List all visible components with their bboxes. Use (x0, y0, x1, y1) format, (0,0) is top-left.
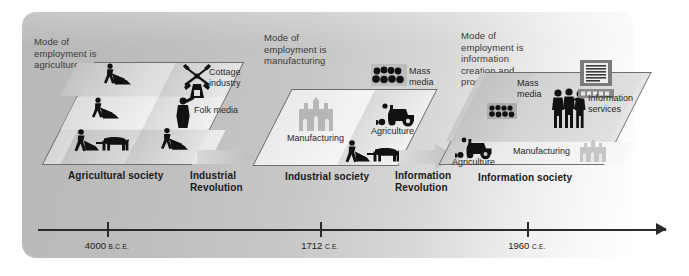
timeline-year: 4000 (85, 240, 106, 251)
timeline-axis (38, 229, 666, 231)
label-cottage-industry: Cottage industry (209, 67, 251, 88)
timeline-era: C.E. (532, 243, 546, 250)
society-label-agricultural: Agricultural society (68, 170, 163, 181)
transition-line: Revolution (395, 182, 451, 194)
mode-caption-industrial: Mode of employment is manufacturing (264, 32, 359, 67)
label-folk-media: Folk media (194, 105, 238, 116)
farmer-plow-icon (158, 127, 192, 153)
farmer-plow-icon (89, 97, 123, 121)
label-line: Agriculture (371, 126, 414, 137)
timeline-arrowhead (656, 223, 667, 235)
mode-line: employment is (461, 42, 541, 54)
timeline-label: 4000 B.C.E. (85, 240, 129, 251)
mode-line: employment is (34, 48, 124, 60)
timeline-tick (320, 222, 322, 237)
cinema-audience-icon (487, 103, 517, 119)
timeline-year: 1960 (508, 240, 529, 251)
farmer-ox-plow-icon (344, 139, 406, 167)
ghost-text (95, 196, 98, 208)
farmer-plow-icon (101, 63, 135, 87)
label-mass-media-industrial: Mass media (409, 66, 445, 87)
label-line: Folk media (194, 105, 238, 116)
factory-building-icon (296, 95, 336, 131)
label-line: Mass (517, 78, 551, 89)
label-manufacturing-information: Manufacturing (513, 146, 570, 157)
timeline-year: 1712 (301, 240, 322, 251)
mode-line: Mode of (34, 36, 124, 48)
timeline-tick (527, 222, 529, 237)
cinema-audience-icon (371, 64, 407, 86)
label-manufacturing-industrial: Manufacturing (287, 133, 344, 144)
farmer-ox-plow-icon (73, 128, 135, 156)
timeline-era: B.C.E. (109, 243, 130, 250)
label-line: Mass (409, 66, 445, 77)
transition-label-information-revolution: Information Revolution (395, 170, 451, 194)
transition-line: Industrial (190, 170, 243, 182)
label-agriculture-information: Agriculture (452, 157, 495, 168)
transition-line: Revolution (190, 182, 243, 194)
label-line: Manufacturing (513, 146, 570, 157)
timeline-era: C.E. (325, 243, 339, 250)
mode-line: Mode of (264, 32, 359, 44)
society-label-information: Information society (478, 172, 572, 183)
mode-line: Mode of (461, 30, 541, 42)
label-line: Manufacturing (287, 133, 344, 144)
label-information-services: Information services (588, 93, 646, 114)
transition-line: Information (395, 170, 451, 182)
society-label-industrial: Industrial society (285, 171, 369, 182)
label-line: Cottage (209, 67, 251, 78)
timeline-tick (107, 222, 109, 237)
diagram-canvas: Mode of employment is agriculture (0, 0, 689, 276)
mode-line: information (461, 53, 541, 65)
label-line: Agriculture (452, 157, 495, 168)
mode-line: manufacturing (264, 55, 359, 67)
transition-label-industrial-revolution: Industrial Revolution (190, 170, 243, 194)
label-line: media (517, 89, 551, 100)
transition-arrow-industrial (197, 144, 255, 170)
mode-line: employment is (264, 44, 359, 56)
tractor-icon (376, 101, 418, 127)
label-agriculture-industrial: Agriculture (371, 126, 414, 137)
label-line: services (588, 104, 646, 115)
timeline-label: 1960 C.E. (508, 240, 546, 251)
timeline-label: 1712 C.E. (301, 240, 339, 251)
label-line: industry (209, 78, 251, 89)
label-line: media (409, 77, 445, 88)
town-crier-horn-icon (172, 96, 196, 130)
label-mass-media-information: Mass media (517, 78, 551, 99)
label-line: Information (588, 93, 646, 104)
factory-building-icon (578, 138, 608, 162)
